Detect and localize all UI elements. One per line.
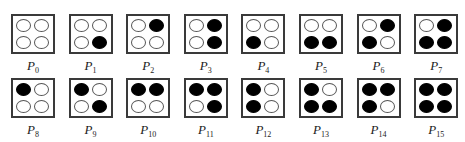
empty-circle-icon [131, 36, 146, 49]
empty-circle-icon [131, 100, 146, 113]
pattern-box [184, 78, 228, 118]
pattern-box [299, 14, 343, 54]
filled-circle-icon [437, 83, 452, 96]
filled-circle-icon [322, 100, 337, 113]
filled-circle-icon [437, 36, 452, 49]
filled-circle-icon [74, 83, 89, 96]
pattern-box [184, 14, 228, 54]
pattern-6: P6 [357, 14, 403, 76]
pattern-box [357, 14, 401, 54]
pattern-label: P7 [414, 58, 458, 75]
pattern-7: P7 [414, 14, 460, 76]
pattern-label: P12 [241, 122, 285, 139]
empty-circle-icon [149, 36, 164, 49]
pattern-14: P14 [357, 78, 403, 140]
filled-circle-icon [207, 19, 222, 32]
filled-circle-icon [92, 36, 107, 49]
filled-circle-icon [304, 36, 319, 49]
pattern-13: P13 [299, 78, 345, 140]
empty-circle-icon [189, 36, 204, 49]
empty-circle-icon [264, 83, 279, 96]
empty-circle-icon [74, 19, 89, 32]
empty-circle-icon [131, 19, 146, 32]
empty-circle-icon [92, 19, 107, 32]
empty-circle-icon [322, 19, 337, 32]
filled-circle-icon [246, 83, 261, 96]
pattern-box [414, 78, 458, 118]
filled-circle-icon [322, 36, 337, 49]
filled-circle-icon [189, 83, 204, 96]
pattern-box [11, 14, 55, 54]
empty-circle-icon [74, 100, 89, 113]
filled-circle-icon [207, 36, 222, 49]
empty-circle-icon [34, 100, 49, 113]
pattern-3: P3 [184, 14, 230, 76]
empty-circle-icon [149, 100, 164, 113]
empty-circle-icon [16, 36, 31, 49]
pattern-box [241, 78, 285, 118]
empty-circle-icon [380, 36, 395, 49]
pattern-box [69, 78, 113, 118]
pattern-box [299, 78, 343, 118]
filled-circle-icon [362, 100, 377, 113]
empty-circle-icon [34, 83, 49, 96]
pattern-label: P13 [299, 122, 343, 139]
filled-circle-icon [419, 83, 434, 96]
empty-circle-icon [322, 83, 337, 96]
pattern-label: P0 [11, 58, 55, 75]
pattern-label: P5 [299, 58, 343, 75]
filled-circle-icon [304, 100, 319, 113]
pattern-2: P2 [126, 14, 172, 76]
filled-circle-icon [380, 19, 395, 32]
empty-circle-icon [419, 19, 434, 32]
pattern-10: P10 [126, 78, 172, 140]
empty-circle-icon [362, 19, 377, 32]
pattern-label: P2 [126, 58, 170, 75]
pattern-8: P8 [11, 78, 57, 140]
empty-circle-icon [92, 83, 107, 96]
pattern-label: P1 [69, 58, 113, 75]
filled-circle-icon [16, 83, 31, 96]
pattern-box [414, 14, 458, 54]
pattern-box [241, 14, 285, 54]
pattern-label: P14 [357, 122, 401, 139]
pattern-1: P1 [69, 14, 115, 76]
pattern-box [69, 14, 113, 54]
pattern-label: P8 [11, 122, 55, 139]
filled-circle-icon [380, 83, 395, 96]
pattern-box [126, 14, 170, 54]
filled-circle-icon [246, 100, 261, 113]
empty-circle-icon [246, 19, 261, 32]
filled-circle-icon [304, 83, 319, 96]
empty-circle-icon [380, 100, 395, 113]
filled-circle-icon [149, 19, 164, 32]
filled-circle-icon [92, 100, 107, 113]
empty-circle-icon [264, 100, 279, 113]
filled-circle-icon [362, 83, 377, 96]
empty-circle-icon [16, 100, 31, 113]
filled-circle-icon [419, 36, 434, 49]
pattern-12: P12 [241, 78, 287, 140]
empty-circle-icon [74, 36, 89, 49]
empty-circle-icon [189, 100, 204, 113]
pattern-label: P6 [357, 58, 401, 75]
pattern-label: P15 [414, 122, 458, 139]
empty-circle-icon [264, 36, 279, 49]
pattern-11: P11 [184, 78, 230, 140]
filled-circle-icon [207, 100, 222, 113]
pattern-9: P9 [69, 78, 115, 140]
pattern-label: P4 [241, 58, 285, 75]
empty-circle-icon [189, 19, 204, 32]
pattern-15: P15 [414, 78, 460, 140]
pattern-box [11, 78, 55, 118]
filled-circle-icon [149, 83, 164, 96]
filled-circle-icon [131, 83, 146, 96]
pattern-label: P9 [69, 122, 113, 139]
pattern-0: P0 [11, 14, 57, 76]
filled-circle-icon [419, 100, 434, 113]
filled-circle-icon [246, 36, 261, 49]
empty-circle-icon [264, 19, 279, 32]
pattern-label: P3 [184, 58, 228, 75]
pattern-box [357, 78, 401, 118]
pattern-label: P11 [184, 122, 228, 139]
